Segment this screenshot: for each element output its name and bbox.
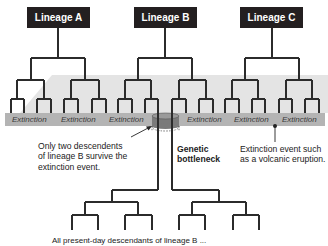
bottleneck-cylinder — [152, 113, 179, 131]
bottleneck-label-line: bottleneck — [177, 154, 220, 164]
lineage-c-box: Lineage C — [240, 7, 303, 28]
survivors-arrow — [131, 127, 150, 137]
survivors-note-line: extinction event. — [38, 162, 127, 172]
lineage-a-box: Lineage A — [27, 7, 90, 28]
lineage-b-box: Lineage B — [134, 7, 197, 28]
extinction-label: Extinction — [187, 115, 222, 124]
survivors-note-line: of lineage B survive the — [38, 151, 127, 161]
extinction-label: Extinction — [12, 115, 47, 124]
extinction-label: Extinction — [109, 115, 144, 124]
bottleneck-label-line: Genetic — [177, 144, 220, 154]
event-note-line: Extinction event such — [240, 144, 326, 154]
bottom-caption: All present-day descendants of lineage B… — [52, 236, 206, 246]
event-note-line: as a volcanic eruption. — [240, 154, 326, 164]
extinction-label: Extinction — [282, 115, 317, 124]
extinction-label: Extinction — [234, 115, 269, 124]
extinction-platform — [20, 75, 328, 113]
bottleneck-label: Genetic bottleneck — [177, 144, 220, 165]
event-note: Extinction event such as a volcanic erup… — [240, 144, 326, 165]
survivors-note-line: Only two descendents — [38, 141, 127, 151]
extinction-label: Extinction — [61, 115, 96, 124]
survivors-note: Only two descendents of lineage B surviv… — [38, 141, 127, 172]
